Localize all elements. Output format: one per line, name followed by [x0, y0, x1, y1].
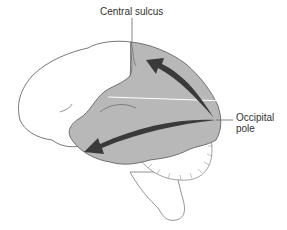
central-sulcus-label: Central sulcus	[100, 6, 163, 17]
occipital-pole-label: Occipital pole	[236, 112, 274, 134]
occipital-pole-label-line2: pole	[236, 123, 274, 134]
occipital-pole-label-line1: Occipital	[236, 112, 274, 123]
brain-diagram: Central sulcus Occipital pole	[0, 0, 287, 230]
